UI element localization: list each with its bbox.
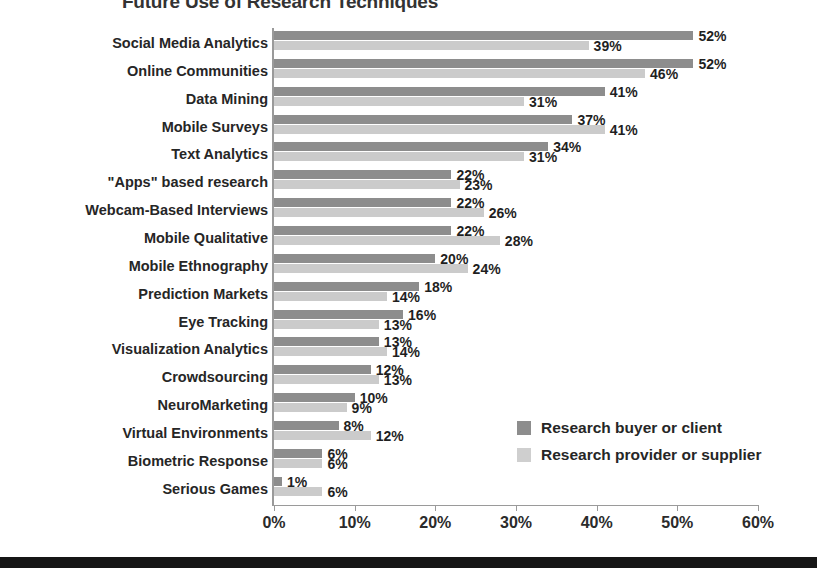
bar-value-label: 14% — [392, 345, 420, 359]
bar-value-label: 26% — [489, 206, 517, 220]
bar-buyer[interactable] — [274, 449, 322, 458]
legend-item-buyer[interactable]: Research buyer or client — [517, 414, 762, 441]
bar-value-label: 31% — [529, 95, 557, 109]
bar-buyer[interactable] — [274, 337, 379, 346]
category-label: Crowdsourcing — [162, 370, 268, 385]
bar-value-label: 18% — [424, 280, 452, 294]
bar-provider[interactable] — [274, 375, 379, 384]
bar-provider[interactable] — [274, 97, 524, 106]
bar-buyer[interactable] — [274, 142, 548, 151]
bar-value-label: 41% — [610, 85, 638, 99]
bar-value-label: 12% — [376, 429, 404, 443]
chart-page: Future Use of Research Techniques 0%10%2… — [0, 0, 817, 574]
bar-value-label: 34% — [553, 140, 581, 154]
bar-provider[interactable] — [274, 487, 322, 496]
bar-provider[interactable] — [274, 320, 379, 329]
bar-value-label: 39% — [594, 39, 622, 53]
category-label: NeuroMarketing — [158, 398, 268, 413]
category-label: Virtual Environments — [122, 426, 268, 441]
x-tick-mark — [516, 505, 517, 511]
x-tick-label: 30% — [486, 514, 546, 532]
category-label: Online Communities — [127, 64, 268, 79]
bar-provider[interactable] — [274, 431, 371, 440]
bar-buyer[interactable] — [274, 254, 435, 263]
bar-buyer[interactable] — [274, 477, 282, 486]
category-label: Prediction Markets — [138, 287, 268, 302]
x-tick-mark — [435, 505, 436, 511]
x-tick-label: 20% — [405, 514, 465, 532]
bar-value-label: 6% — [327, 485, 347, 499]
bar-value-label: 23% — [465, 178, 493, 192]
bar-buyer[interactable] — [274, 59, 693, 68]
bar-value-label: 9% — [352, 401, 372, 415]
x-tick-mark — [758, 505, 759, 511]
bar-provider[interactable] — [274, 180, 460, 189]
x-tick-mark — [274, 505, 275, 511]
bar-buyer[interactable] — [274, 31, 693, 40]
footer-rule — [0, 557, 817, 568]
category-label: Text Analytics — [171, 147, 268, 162]
bar-provider[interactable] — [274, 403, 347, 412]
chart-legend: Research buyer or client Research provid… — [517, 414, 762, 468]
x-tick-label: 10% — [325, 514, 385, 532]
category-label: Mobile Ethnography — [129, 259, 268, 274]
bar-provider[interactable] — [274, 236, 500, 245]
bar-provider[interactable] — [274, 125, 605, 134]
bar-provider[interactable] — [274, 41, 589, 50]
bar-value-label: 41% — [610, 123, 638, 137]
bar-value-label: 52% — [698, 57, 726, 71]
bar-buyer[interactable] — [274, 393, 355, 402]
bar-buyer[interactable] — [274, 226, 451, 235]
category-label: Visualization Analytics — [112, 342, 268, 357]
legend-label-buyer: Research buyer or client — [541, 419, 722, 437]
category-label: "Apps" based research — [108, 175, 268, 190]
x-tick-mark — [597, 505, 598, 511]
category-label: Social Media Analytics — [112, 36, 268, 51]
bar-value-label: 13% — [384, 373, 412, 387]
bar-value-label: 14% — [392, 290, 420, 304]
bar-buyer[interactable] — [274, 115, 572, 124]
x-tick-label: 60% — [728, 514, 788, 532]
x-tick-label: 0% — [244, 514, 304, 532]
bar-provider[interactable] — [274, 264, 468, 273]
bar-buyer[interactable] — [274, 421, 339, 430]
chart-title: Future Use of Research Techniques — [0, 0, 560, 13]
x-tick-label: 50% — [647, 514, 707, 532]
bar-provider[interactable] — [274, 208, 484, 217]
bar-value-label: 46% — [650, 67, 678, 81]
bar-value-label: 31% — [529, 150, 557, 164]
bar-value-label: 24% — [473, 262, 501, 276]
bar-buyer[interactable] — [274, 198, 451, 207]
bar-value-label: 6% — [327, 457, 347, 471]
legend-item-provider[interactable]: Research provider or supplier — [517, 441, 762, 468]
bar-value-label: 13% — [384, 318, 412, 332]
category-label: Webcam-Based Interviews — [85, 203, 268, 218]
legend-label-provider: Research provider or supplier — [541, 446, 762, 464]
x-tick-mark — [677, 505, 678, 511]
bar-provider[interactable] — [274, 152, 524, 161]
bar-buyer[interactable] — [274, 365, 371, 374]
bar-buyer[interactable] — [274, 170, 451, 179]
legend-swatch-icon-buyer — [517, 421, 531, 435]
x-tick-label: 40% — [567, 514, 627, 532]
bar-value-label: 28% — [505, 234, 533, 248]
category-label: Data Mining — [186, 92, 268, 107]
bar-provider[interactable] — [274, 292, 387, 301]
x-axis-line — [272, 505, 758, 506]
bar-value-label: 16% — [408, 308, 436, 322]
category-label: Mobile Surveys — [162, 120, 268, 135]
bar-value-label: 52% — [698, 29, 726, 43]
legend-swatch-icon-provider — [517, 448, 531, 462]
category-label: Eye Tracking — [179, 315, 268, 330]
bar-provider[interactable] — [274, 347, 387, 356]
x-tick-mark — [355, 505, 356, 511]
bar-provider[interactable] — [274, 459, 322, 468]
bar-provider[interactable] — [274, 69, 645, 78]
category-label: Biometric Response — [128, 454, 268, 469]
category-label: Serious Games — [162, 482, 268, 497]
category-label: Mobile Qualitative — [144, 231, 268, 246]
